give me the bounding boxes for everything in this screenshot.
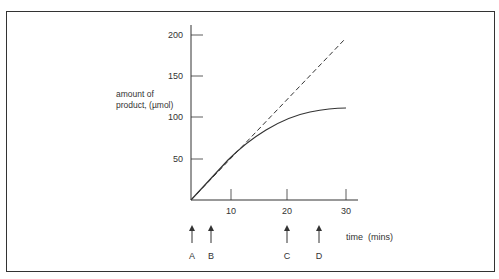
- y-tick-label-200: 200: [168, 30, 183, 40]
- x-ticks: 10 20 30: [226, 189, 351, 216]
- x-tick-label-10: 10: [226, 206, 236, 216]
- x-tick-label-30: 30: [341, 206, 351, 216]
- annotation-label-c: C: [284, 251, 291, 261]
- annotation-label-a: A: [189, 251, 195, 261]
- y-tick-label-50: 50: [173, 154, 183, 164]
- annotation-label-b: B: [208, 251, 214, 261]
- y-tick-label-100: 100: [168, 112, 183, 122]
- x-axis-label: time (mins): [346, 232, 393, 242]
- x-tick-label-20: 20: [282, 206, 292, 216]
- annotation-arrows: A B C D: [189, 225, 323, 261]
- product-curve: [191, 108, 346, 200]
- chart-plot: 200 150 100 50 10 20 30 A B C D time (mi…: [0, 0, 499, 279]
- y-tick-label-150: 150: [168, 71, 183, 81]
- annotation-label-d: D: [316, 251, 323, 261]
- y-ticks: 200 150 100 50: [168, 30, 203, 164]
